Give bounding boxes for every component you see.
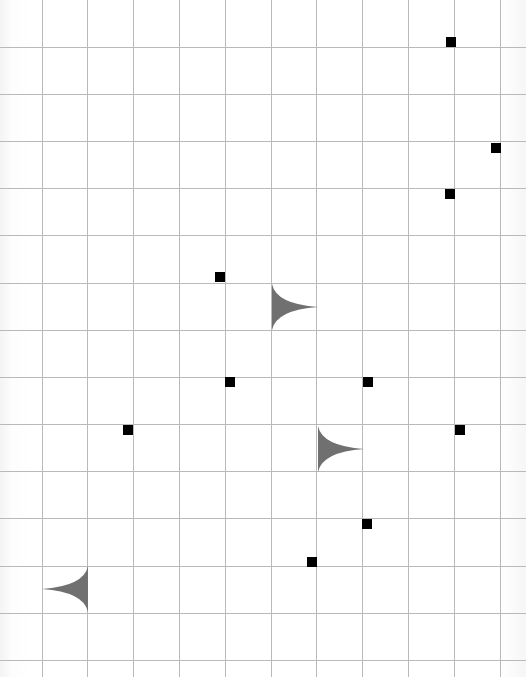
grid-horizontal-line xyxy=(0,141,526,142)
grid-horizontal-line xyxy=(0,660,526,661)
square-marker-icon xyxy=(445,189,455,199)
grid-horizontal-line xyxy=(0,283,526,284)
square-marker-icon xyxy=(455,425,465,435)
grid-board xyxy=(0,0,526,677)
grid-vertical-line xyxy=(454,0,455,677)
cusp-arrow-right-icon xyxy=(272,284,318,330)
square-marker-icon xyxy=(446,37,456,47)
grid-horizontal-line xyxy=(0,377,526,378)
square-marker-icon xyxy=(491,143,501,153)
grid-vertical-line xyxy=(500,0,501,677)
square-marker-icon xyxy=(225,377,235,387)
square-marker-icon xyxy=(307,557,317,567)
grid-vertical-line xyxy=(316,0,317,677)
grid-vertical-line xyxy=(362,0,363,677)
grid-horizontal-line xyxy=(0,424,526,425)
cusp-arrow-right-icon xyxy=(318,426,364,472)
square-marker-icon xyxy=(123,425,133,435)
grid-vertical-line xyxy=(179,0,180,677)
square-marker-icon xyxy=(215,272,225,282)
grid-vertical-line xyxy=(408,0,409,677)
grid-horizontal-line xyxy=(0,47,526,48)
grid-vertical-line xyxy=(271,0,272,677)
grid-horizontal-line xyxy=(0,330,526,331)
grid-horizontal-line xyxy=(0,471,526,472)
grid-horizontal-line xyxy=(0,613,526,614)
square-marker-icon xyxy=(362,519,372,529)
grid-horizontal-line xyxy=(0,235,526,236)
grid-horizontal-line xyxy=(0,518,526,519)
grid-horizontal-line xyxy=(0,94,526,95)
square-marker-icon xyxy=(363,377,373,387)
cusp-arrow-left-icon xyxy=(42,566,88,612)
grid-vertical-line xyxy=(225,0,226,677)
grid-vertical-line xyxy=(133,0,134,677)
